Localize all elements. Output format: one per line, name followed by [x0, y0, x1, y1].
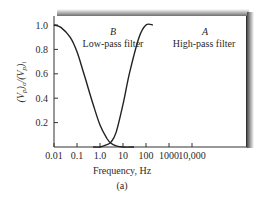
high-pass-label: High-pass filter — [173, 38, 236, 49]
y-tick-label: 0.8 — [36, 44, 49, 55]
y-tick-label: 0.2 — [36, 117, 49, 128]
low-pass-letter: B — [110, 26, 116, 37]
x-tick-label: 1.0 — [94, 150, 107, 161]
x-tick-label: 1000 — [159, 150, 179, 161]
y-tick-label: 0.6 — [36, 68, 49, 79]
x-tick-label: 10 — [118, 150, 128, 161]
figure-caption: (a) — [116, 180, 127, 192]
x-tick-label: 0.1 — [71, 150, 84, 161]
high-pass-letter: A — [201, 26, 209, 37]
frame-top-shadow — [57, 9, 249, 16]
y-axis-label: (Vp)o/(Vp)i — [15, 62, 28, 103]
x-tick-label: 0.01 — [45, 150, 63, 161]
filter-response-chart: 0.20.40.60.81.0 0.010.11.010100100010,00… — [0, 0, 262, 199]
svg-text:(Vp)o/(Vp)i: (Vp)o/(Vp)i — [15, 62, 28, 103]
y-axis: 0.20.40.60.81.0 — [36, 16, 59, 147]
y-tick-label: 0.4 — [36, 93, 49, 104]
x-axis: 0.010.11.010100100010,000 — [45, 143, 247, 161]
x-tick-label: 10,000 — [178, 150, 206, 161]
low-pass-label: Low-pass filter — [83, 38, 144, 49]
x-axis-label: Frequency, Hz — [93, 165, 152, 176]
frame-right-shadow — [247, 12, 254, 148]
y-tick-label: 1.0 — [36, 20, 49, 31]
x-tick-label: 100 — [139, 150, 154, 161]
